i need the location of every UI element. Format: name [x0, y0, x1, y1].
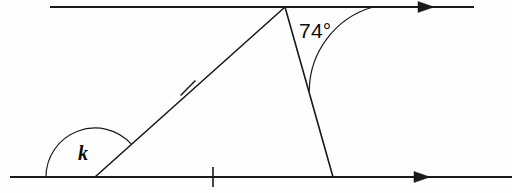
top-line-arrowhead-icon: [418, 2, 434, 13]
angle-label-k: k: [78, 143, 88, 163]
transversal-line: [95, 7, 285, 177]
angle-label-74-degrees: 74°: [299, 20, 331, 41]
angle-arc-k: [46, 128, 132, 177]
bottom-line-arrowhead-icon: [414, 172, 430, 183]
geometry-canvas: [0, 0, 512, 193]
geometry-figure: 74° k: [0, 0, 512, 193]
